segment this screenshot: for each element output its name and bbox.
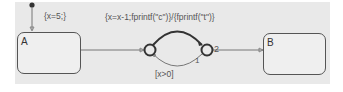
junction-2[interactable] [202,45,213,56]
execution-order-2: 2 [214,45,219,54]
transition-label-condition-action[interactable]: {x=x-1;fprintf("c")}/{fprintf("t")} [105,13,215,22]
default-transition-dot-icon [29,2,34,7]
execution-order-1: 1 [195,57,199,65]
default-transition[interactable] [29,2,34,31]
transition-label-guard[interactable]: [x>0] [155,70,174,79]
transition-junction2-to-b[interactable] [213,48,263,52]
transition-a-to-junction1[interactable] [81,48,144,52]
default-transition-label[interactable]: {x=5;} [44,12,66,21]
junction-1[interactable] [145,45,156,56]
transition-junction1-to-junction2[interactable] [153,32,202,47]
